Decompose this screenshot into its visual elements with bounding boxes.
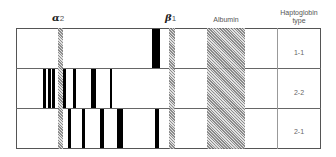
protein-band [73,69,76,108]
albumin-hatched-zone [207,28,245,149]
beta-subscript: 1 [172,14,176,23]
type-1-1: 1-1 [277,49,321,56]
protein-band [52,69,55,108]
type-label-line1: Haptoglobin [277,9,321,17]
protein-band [152,29,160,68]
alpha2-label: α2 [52,12,64,23]
protein-band [82,109,85,148]
haptoglobin-type-label: Haptoglobin type [277,9,321,25]
protein-band [100,109,104,148]
protein-band [91,69,96,108]
protein-band [63,69,66,108]
alpha-symbol: α [52,12,60,23]
protein-band [48,69,51,108]
albumin-label: Albumin [207,16,245,24]
protein-band [68,109,71,148]
protein-band [117,109,123,148]
protein-band [110,69,112,108]
protein-band [43,69,46,108]
beta-symbol: β [165,12,172,23]
type-label-line2: type [277,17,321,25]
beta1-hatched-zone [169,28,175,149]
beta1-label: β1 [165,12,176,23]
alpha-subscript: 2 [60,14,64,23]
protein-band [155,109,159,148]
type-2-2: 2-2 [277,89,321,96]
type-2-1: 2-1 [277,128,321,135]
